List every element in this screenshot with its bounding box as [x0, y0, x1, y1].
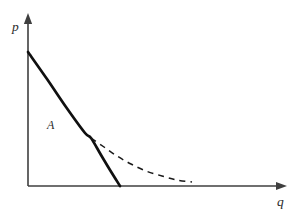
y-axis-arrowhead [24, 13, 32, 24]
figure-canvas: p q A [0, 0, 298, 213]
region-label-a: A [46, 118, 55, 132]
y-axis-label: p [11, 19, 19, 34]
x-axis-label: q [277, 194, 284, 209]
solid-demand-segment [28, 52, 120, 186]
x-axis-arrowhead [276, 182, 287, 190]
dashed-demand-continuation [91, 138, 192, 182]
chart-svg: p q A [0, 0, 298, 213]
